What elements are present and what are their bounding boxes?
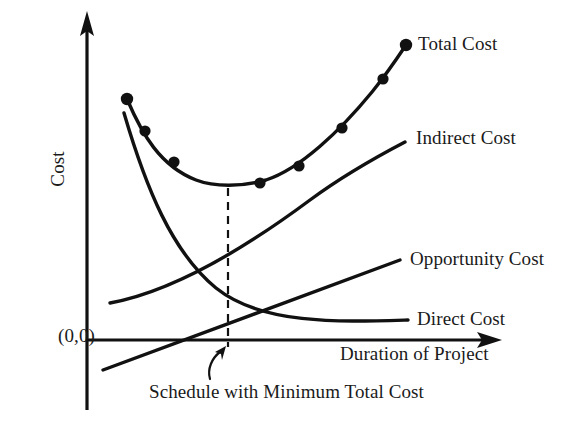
data-point (254, 177, 265, 188)
direct-cost-curve (124, 113, 408, 321)
data-point (121, 93, 133, 105)
data-point (139, 125, 150, 136)
total-cost-markers (121, 39, 412, 189)
y-axis-label: Cost (47, 141, 69, 197)
data-point (377, 73, 388, 84)
data-point (168, 156, 179, 167)
indirect-cost-curve (110, 142, 405, 303)
series-label-direct-cost: Direct Cost (417, 308, 505, 330)
data-point (293, 160, 304, 171)
annotation-arrow-icon (209, 346, 226, 379)
series-label-total-cost: Total Cost (418, 33, 497, 55)
origin-label: (0,0) (58, 325, 95, 347)
data-point (400, 39, 412, 51)
minimum-cost-annotation-label: Schedule with Minimum Total Cost (149, 381, 424, 403)
x-axis-label: Duration of Project (340, 343, 489, 365)
cost-duration-chart: Total Cost Indirect Cost Opportunity Cos… (0, 0, 580, 424)
chart-canvas (0, 0, 580, 424)
data-point (336, 122, 347, 133)
series-label-opportunity-cost: Opportunity Cost (410, 248, 544, 270)
series-label-indirect-cost: Indirect Cost (416, 127, 516, 149)
